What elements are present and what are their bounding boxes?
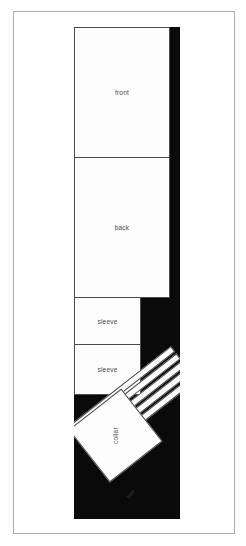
fabric-field: front back sleeve sleeve collar trim [74,27,180,519]
pattern-piece-sleeve-1: sleeve [74,297,141,345]
pattern-piece-collar-label: collar [112,427,119,444]
pattern-piece-sleeve-1-label: sleeve [98,318,118,325]
pattern-piece-back: back [74,157,170,298]
pattern-piece-front: front [74,27,170,158]
pattern-piece-sleeve-2-label: sleeve [98,366,118,373]
pattern-piece-front-label: front [115,89,129,96]
pattern-piece-back-label: back [115,224,130,231]
garment-cutting-layout-diagram: front back sleeve sleeve collar trim [0,0,246,546]
